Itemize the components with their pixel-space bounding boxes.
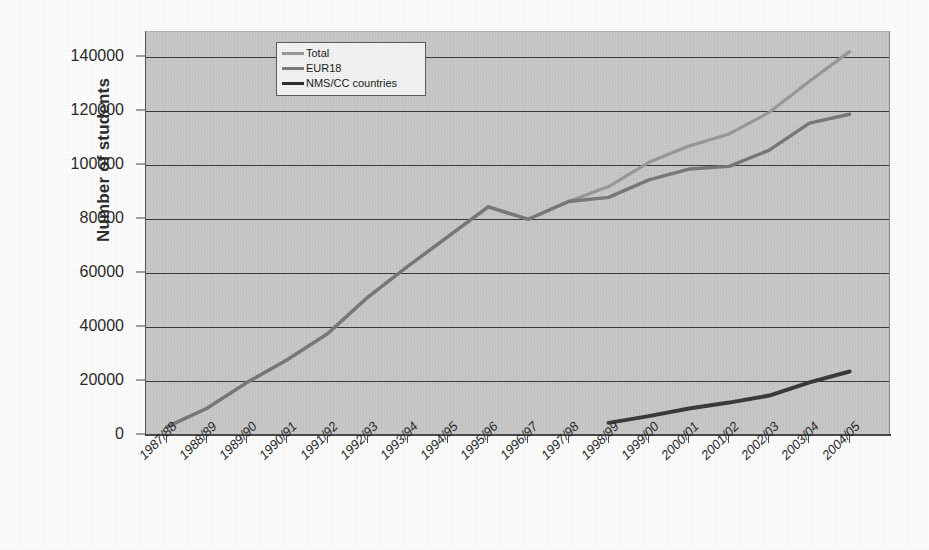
y-axis-tick-mark <box>136 272 145 273</box>
y-axis-tick-label: 20000 <box>80 371 125 389</box>
y-axis-tick-mark <box>136 326 145 327</box>
y-axis-tick-mark <box>136 434 145 435</box>
legend-item-label: Total <box>306 48 329 59</box>
series-line <box>167 114 850 427</box>
series-line <box>609 372 850 423</box>
legend-item-label: EUR18 <box>306 63 341 74</box>
legend-color-swatch <box>282 82 304 85</box>
chart-figure: Number of students 020000400006000080000… <box>0 0 929 550</box>
y-axis-tick-label: 60000 <box>80 263 125 281</box>
y-axis-tick-label: 80000 <box>80 209 125 227</box>
y-axis-tick-mark <box>136 380 145 381</box>
y-axis-tick-label: 140000 <box>71 47 124 65</box>
legend-item[interactable]: NMS/CC countries <box>282 76 421 91</box>
legend-item[interactable]: EUR18 <box>282 61 421 76</box>
legend-color-swatch <box>282 52 304 55</box>
y-axis-tick-mark <box>136 164 145 165</box>
y-axis-tick-mark <box>136 218 145 219</box>
y-axis-tick-label: 120000 <box>71 101 124 119</box>
y-axis-tick-label: 40000 <box>80 317 125 335</box>
plot-area <box>145 31 890 434</box>
legend-item[interactable]: Total <box>282 46 421 61</box>
y-axis-tick-mark <box>136 110 145 111</box>
y-axis-tick-label: 0 <box>115 425 124 443</box>
y-axis-tick-label: 100000 <box>71 155 124 173</box>
chart-legend: TotalEUR18NMS/CC countries <box>276 42 426 96</box>
y-axis-tick-mark <box>136 56 145 57</box>
y-axis-tick-labels: 020000400006000080000100000120000140000 <box>0 0 138 550</box>
legend-color-swatch <box>282 67 304 70</box>
series-lines <box>146 32 891 435</box>
legend-item-label: NMS/CC countries <box>306 78 397 89</box>
